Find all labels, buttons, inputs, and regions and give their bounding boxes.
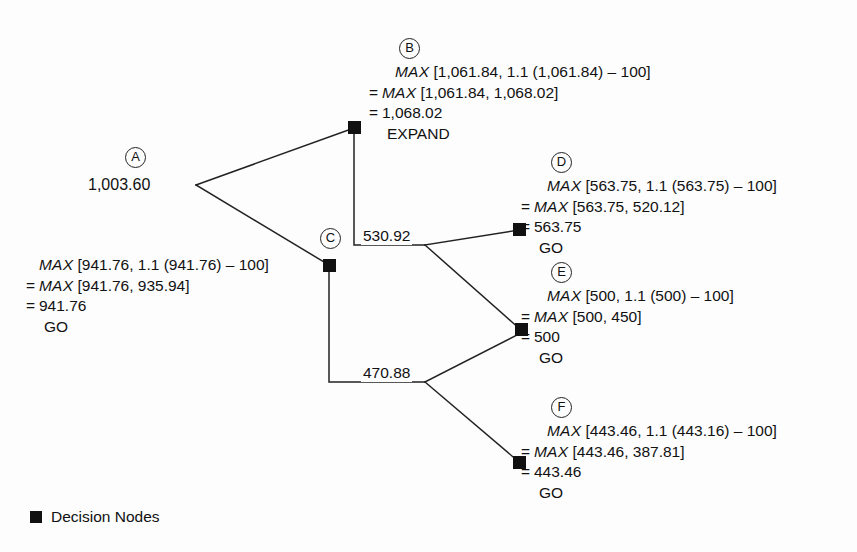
- node-c-decision: GO: [44, 317, 269, 338]
- node-f-line-2: =MAX [443.46, 387.81]: [521, 442, 777, 463]
- max-operator: MAX: [547, 422, 581, 439]
- node-e-line-3: =500: [521, 327, 734, 348]
- max-operator: MAX: [547, 287, 581, 304]
- node-d-line-2: =MAX [563.75, 520.12]: [521, 197, 777, 218]
- node-b-decision: EXPAND: [387, 124, 651, 145]
- edge-label-lower: 470.88: [361, 363, 412, 382]
- node-f-line-3: =443.46: [521, 462, 777, 483]
- edge-a-to-b: [196, 128, 354, 185]
- max-operator: MAX: [39, 277, 73, 294]
- node-b-line-3: =1,068.02: [369, 103, 651, 124]
- node-f-line-1-rest: [443.46, 1.1 (443.16) – 100]: [581, 422, 777, 439]
- node-d-line-1: MAX [563.75, 1.1 (563.75) – 100]: [534, 176, 777, 197]
- node-d-line-2-rest: [563.75, 520.12]: [568, 198, 684, 215]
- decision-node-swatch: [30, 511, 42, 523]
- node-f-line-1: MAX [443.46, 1.1 (443.16) – 100]: [534, 421, 777, 442]
- node-f-line-3-rest: 443.46: [534, 463, 581, 480]
- node-f-decision: GO: [539, 483, 777, 504]
- node-e-line-2-rest: [500, 450]: [568, 308, 641, 325]
- equals-sign: =: [26, 296, 39, 317]
- decision-node-e[interactable]: [515, 323, 528, 336]
- max-operator: MAX: [382, 84, 416, 101]
- node-f-line-2-rest: [443.46, 387.81]: [568, 443, 684, 460]
- node-e-line-1-rest: [500, 1.1 (500) – 100]: [581, 287, 734, 304]
- node-marker-c: C: [320, 228, 341, 249]
- decision-node-c[interactable]: [323, 259, 336, 272]
- edge-junction-lower-to-e: [425, 333, 521, 382]
- node-c-expression: MAX [941.76, 1.1 (941.76) – 100] =MAX [9…: [26, 255, 269, 337]
- node-c-line-3: =941.76: [26, 296, 269, 317]
- node-d-line-3-rest: 563.75: [534, 218, 581, 235]
- equals-sign: =: [369, 83, 382, 104]
- node-f-expression: MAX [443.46, 1.1 (443.16) – 100] =MAX [4…: [534, 421, 777, 503]
- node-d-expression: MAX [563.75, 1.1 (563.75) – 100] =MAX [5…: [534, 176, 777, 258]
- max-operator: MAX: [395, 63, 429, 80]
- edge-junction-lower-to-f: [425, 382, 519, 462]
- node-b-expression: MAX [1,061.84, 1.1 (1,061.84) – 100] =MA…: [382, 62, 651, 144]
- node-e-decision: GO: [539, 348, 734, 369]
- node-d-line-3: =563.75: [521, 217, 777, 238]
- node-marker-b: B: [399, 38, 420, 59]
- node-c-line-2: =MAX [941.76, 935.94]: [26, 276, 269, 297]
- node-marker-a: A: [125, 147, 146, 168]
- edge-a-to-c: [196, 185, 329, 265]
- node-e-line-2: =MAX [500, 450]: [521, 307, 734, 328]
- edge-label-upper: 530.92: [361, 226, 412, 245]
- equals-sign: =: [26, 276, 39, 297]
- edge-junction-upper-to-e: [425, 245, 521, 330]
- node-b-line-3-rest: 1,068.02: [382, 104, 442, 121]
- max-operator: MAX: [547, 177, 581, 194]
- decision-tree-figure: A 1,003.60 B MAX [1,061.84, 1.1 (1,061.8…: [0, 0, 857, 552]
- node-marker-f: F: [551, 397, 572, 418]
- node-b-line-2-rest: [1,061.84, 1,068.02]: [416, 84, 558, 101]
- node-d-decision: GO: [539, 238, 777, 259]
- max-operator: MAX: [534, 198, 568, 215]
- node-e-expression: MAX [500, 1.1 (500) – 100] =MAX [500, 45…: [534, 286, 734, 368]
- max-operator: MAX: [39, 256, 73, 273]
- legend-label: Decision Nodes: [51, 508, 160, 526]
- node-e-line-1: MAX [500, 1.1 (500) – 100]: [534, 286, 734, 307]
- node-c-line-2-rest: [941.76, 935.94]: [73, 277, 189, 294]
- node-a-value: 1,003.60: [88, 175, 150, 195]
- node-c-line-1-rest: [941.76, 1.1 (941.76) – 100]: [73, 256, 269, 273]
- node-b-line-1-rest: [1,061.84, 1.1 (1,061.84) – 100]: [429, 63, 650, 80]
- node-c-line-3-rest: 941.76: [39, 297, 86, 314]
- node-b-line-2: =MAX [1,061.84, 1,068.02]: [369, 83, 651, 104]
- equals-sign: =: [521, 197, 534, 218]
- max-operator: MAX: [534, 308, 568, 325]
- decision-node-d[interactable]: [513, 223, 526, 236]
- max-operator: MAX: [534, 443, 568, 460]
- node-e-line-3-rest: 500: [534, 328, 560, 345]
- decision-node-f[interactable]: [513, 456, 526, 469]
- equals-sign: =: [369, 103, 382, 124]
- legend: Decision Nodes: [30, 508, 160, 526]
- decision-node-b[interactable]: [348, 121, 361, 134]
- edge-junction-upper-to-d: [425, 230, 519, 245]
- node-marker-e: E: [551, 262, 572, 283]
- node-b-line-1: MAX [1,061.84, 1.1 (1,061.84) – 100]: [382, 62, 651, 83]
- node-c-line-1: MAX [941.76, 1.1 (941.76) – 100]: [26, 255, 269, 276]
- node-marker-d: D: [551, 152, 572, 173]
- node-d-line-1-rest: [563.75, 1.1 (563.75) – 100]: [581, 177, 777, 194]
